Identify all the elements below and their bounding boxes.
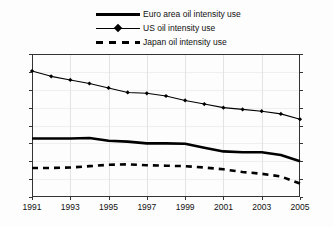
data-point-marker [106, 86, 110, 90]
data-point-marker [240, 107, 244, 111]
chart-legend: Euro area oil intensity use US oil inten… [96, 8, 296, 50]
legend-item-japan: Japan oil intensity use [96, 36, 296, 48]
y-axis-tick-left [29, 179, 32, 180]
data-point-marker [87, 81, 91, 85]
y-axis-tick-left [29, 161, 32, 162]
legend-label-japan: Japan oil intensity use [143, 37, 227, 47]
data-point-marker [183, 98, 187, 102]
y-axis-tick-right [300, 54, 303, 55]
series-line-euro [32, 138, 300, 161]
y-axis-tick-left [29, 54, 32, 55]
data-point-marker [221, 106, 225, 110]
x-axis-tick [70, 197, 71, 200]
data-point-marker [298, 117, 302, 121]
y-axis-tick-right [300, 108, 303, 109]
x-axis-tick [300, 197, 301, 200]
diamond-marker-icon [114, 23, 122, 31]
data-point-marker [164, 94, 168, 98]
x-axis-label: 1995 [94, 203, 124, 212]
x-axis-tick [262, 197, 263, 200]
y-axis-tick-left [29, 126, 32, 127]
y-axis-tick-right [300, 161, 303, 162]
y-axis-tick-left [29, 72, 32, 73]
series-line-japan [32, 164, 300, 183]
legend-key-japan-dashed-line [96, 37, 140, 48]
x-axis-label: 2001 [208, 203, 238, 212]
y-axis-tick-left [29, 108, 32, 109]
data-point-marker [260, 109, 264, 113]
x-axis-label: 1999 [170, 203, 200, 212]
legend-key-euro-area-solid-line [96, 9, 140, 20]
x-axis-tick [147, 197, 148, 200]
y-axis-tick-right [300, 72, 303, 73]
y-axis-tick-right [300, 126, 303, 127]
y-axis-tick-right [300, 179, 303, 180]
y-axis-tick-left [29, 90, 32, 91]
series-layer [32, 54, 300, 197]
legend-key-us-marker-line [96, 23, 140, 34]
y-axis-tick-right [300, 90, 303, 91]
x-axis-tick [109, 197, 110, 200]
y-axis-tick-right [300, 143, 303, 144]
y-axis-tick-left [29, 143, 32, 144]
x-axis-label: 1997 [132, 203, 162, 212]
x-axis-tick [185, 197, 186, 200]
oil-intensity-line-chart: Euro area oil intensity use US oil inten… [0, 0, 334, 227]
x-axis-tick [32, 197, 33, 200]
legend-item-euro-area: Euro area oil intensity use [96, 8, 296, 20]
data-point-marker [68, 78, 72, 82]
plot-area: 2.62.62.42.42.22.2221.81.81.61.61.41.41.… [32, 54, 300, 197]
data-point-marker [202, 102, 206, 106]
data-point-marker [49, 74, 53, 78]
x-axis-label: 1993 [55, 203, 85, 212]
legend-item-us: US oil intensity use [96, 22, 296, 34]
legend-label-euro-area: Euro area oil intensity use [143, 9, 241, 19]
legend-label-us: US oil intensity use [143, 23, 215, 33]
data-point-marker [126, 90, 130, 94]
data-point-marker [279, 112, 283, 116]
x-axis-label: 1991 [17, 203, 47, 212]
x-axis-label: 2005 [285, 203, 315, 212]
data-point-marker [145, 91, 149, 95]
x-axis-label: 2003 [247, 203, 277, 212]
x-axis-tick [223, 197, 224, 200]
